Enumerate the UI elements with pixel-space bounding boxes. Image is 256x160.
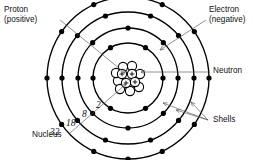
atom-diagram: Proton(positive)Electron(negative)Neutro… xyxy=(0,0,256,160)
electron-dot xyxy=(143,45,148,50)
electron-dot xyxy=(206,75,211,80)
electron-dot xyxy=(176,33,181,38)
electron-dot xyxy=(160,2,165,7)
electron-dot xyxy=(91,2,96,7)
shell-count-2: 2 xyxy=(96,100,101,110)
electron-dot xyxy=(143,106,148,111)
electron-dot xyxy=(191,75,196,80)
electron-dot xyxy=(176,118,181,123)
electron-dot xyxy=(91,149,96,154)
electron-dot xyxy=(108,45,113,50)
electron-dot xyxy=(125,25,130,30)
shells-label: Shells xyxy=(213,115,235,124)
electron-dot xyxy=(161,40,166,45)
electron-dot xyxy=(59,122,64,127)
proton-label-line2: (positive) xyxy=(4,15,37,24)
electron-dot xyxy=(103,137,108,142)
shell-count-8: 8 xyxy=(82,109,87,119)
electron-label-line2: (negative) xyxy=(209,15,246,24)
electron-dot xyxy=(75,118,80,123)
electron-dot xyxy=(192,29,197,34)
electron-dot xyxy=(160,75,165,80)
diagram-canvas: Proton(positive)Electron(negative)Neutro… xyxy=(0,0,256,160)
electron-dot xyxy=(125,125,130,130)
electron-dot xyxy=(148,137,153,142)
shell-orbit-2 xyxy=(93,43,163,113)
electron-dot xyxy=(160,149,165,154)
shell-count-18: 18 xyxy=(66,118,76,128)
electron-dot xyxy=(103,13,108,18)
electron-dot xyxy=(125,156,130,160)
shell-count-32: 32 xyxy=(49,127,60,137)
shell-orbit-18 xyxy=(62,12,194,144)
electron-dot xyxy=(59,75,64,80)
electron-dot xyxy=(192,122,197,127)
electron-dot xyxy=(175,75,180,80)
electron-dot xyxy=(44,75,49,80)
electron-dot xyxy=(59,29,64,34)
electron-dot xyxy=(161,111,166,116)
electron-label-line1: Electron xyxy=(209,5,239,14)
electron-leader-head xyxy=(160,46,165,50)
electron-dot xyxy=(90,75,95,80)
electron-dot xyxy=(148,13,153,18)
electron-dot xyxy=(90,40,95,45)
electron-dot xyxy=(108,106,113,111)
proton-label-line1: Proton xyxy=(4,5,29,14)
electron-dot xyxy=(75,75,80,80)
neutron-label: Neutron xyxy=(213,66,243,75)
